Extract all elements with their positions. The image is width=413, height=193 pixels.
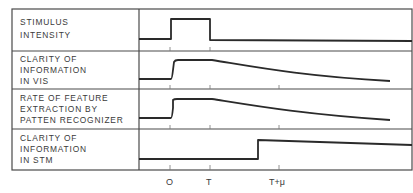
stm-clarity-curve	[139, 140, 412, 159]
panel1-label-line1: STIMULUS	[20, 17, 69, 27]
tick-label-t: T	[206, 177, 212, 187]
tick-marks	[170, 47, 279, 170]
stimulus-intensity-curve	[139, 19, 412, 41]
feature-extraction-curve	[139, 99, 390, 120]
tick-label-o: O	[166, 177, 173, 187]
timing-diagram: STIMULUS INTENSITY CLARITY OF INFORMATIO…	[0, 0, 413, 193]
panel4-label-line1: CLARITY OF	[20, 133, 77, 143]
panel4-label-line2: INFORMATION	[20, 144, 87, 154]
panel2-label-line1: CLARITY OF	[20, 54, 77, 64]
panel3-label-line3: PATTEN RECOGNIZER	[20, 115, 124, 125]
tick-label-t-mu: T+μ	[269, 177, 285, 187]
panel1-label-line2: INTENSITY	[20, 30, 71, 40]
panel4-label-line3: IN STM	[20, 155, 53, 165]
panel2-label-line2: INFORMATION	[20, 65, 87, 75]
panel3-label-line1: RATE OF FEATURE	[20, 93, 108, 103]
panel3-label-line2: EXTRACTION BY	[20, 104, 98, 114]
vis-clarity-curve	[139, 60, 390, 81]
panel2-label-line3: IN VIS	[20, 76, 49, 86]
